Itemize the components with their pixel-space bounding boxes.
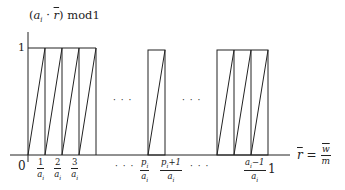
x-tick-pi-over-ai: piai bbox=[140, 158, 149, 182]
x-tick-ai-minus-1-over-ai: ai−1ai bbox=[244, 158, 266, 182]
y-tick-label-1: 1 bbox=[18, 42, 25, 53]
ellipsis-mid-right: · · · bbox=[182, 95, 201, 105]
x-tick-1-over-ai: 1ai bbox=[37, 158, 44, 180]
sawtooth-cell-middle bbox=[148, 50, 165, 155]
sawtooth-diagram: (ai · r) mod1 1 0 · · · · · · 1ai 2ai 3a… bbox=[0, 0, 345, 190]
ellipsis-axis-right: · · · bbox=[190, 161, 209, 171]
origin-label: 0 bbox=[18, 160, 26, 172]
ellipsis-axis-left: · · · bbox=[115, 161, 134, 171]
sawtooth-group-start bbox=[28, 48, 96, 155]
x-axis-title-fraction: wm bbox=[321, 145, 331, 166]
x-tick-3-over-ai: 3ai bbox=[71, 158, 78, 180]
x-end-label-1: 1 bbox=[268, 163, 276, 175]
x-tick-pi-plus-1-over-ai: pi+1ai bbox=[160, 158, 182, 182]
x-tick-2-over-ai: 2ai bbox=[54, 158, 61, 180]
y-axis-title: (ai · r) mod1 bbox=[29, 10, 100, 24]
sawtooth-group-end bbox=[217, 50, 268, 155]
ellipsis-mid-left: · · · bbox=[113, 95, 132, 105]
x-axis-title: r = bbox=[297, 149, 317, 161]
